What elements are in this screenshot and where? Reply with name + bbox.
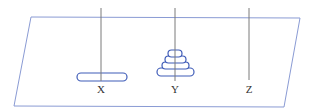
peg-label-y: Y [165,83,185,95]
peg-label-z: Z [239,83,259,95]
disk-x-1 [77,73,127,81]
peg-label-x: X [91,83,111,95]
hanoi-diagram [0,0,314,112]
